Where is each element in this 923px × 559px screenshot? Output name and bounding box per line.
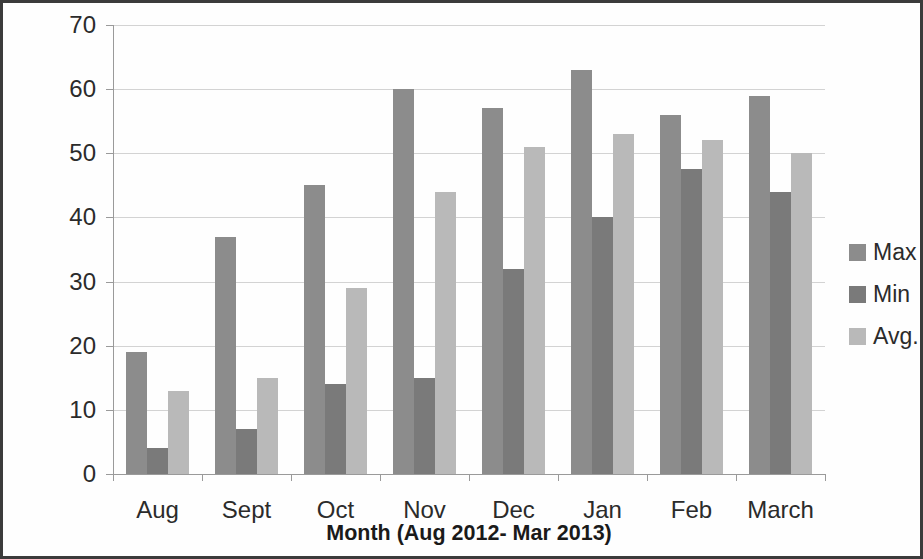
bar-avg (702, 140, 723, 474)
legend-item: Max (849, 231, 923, 273)
bar-group (749, 25, 811, 474)
x-axis-tick (202, 474, 203, 481)
bar-group (126, 25, 188, 474)
y-axis-label: 30 (69, 268, 96, 296)
y-axis-tick (106, 346, 113, 347)
x-axis-tick (558, 474, 559, 481)
x-axis-label: Nov (403, 496, 446, 524)
bar-group (571, 25, 633, 474)
y-axis-label: 60 (69, 75, 96, 103)
x-axis-tick (736, 474, 737, 481)
x-axis-tick (469, 474, 470, 481)
x-axis-tick (825, 474, 826, 481)
bar-group (660, 25, 722, 474)
bar-avg (168, 391, 189, 474)
x-axis-tick (291, 474, 292, 481)
bar-max (482, 108, 503, 474)
x-axis-title: Month (Aug 2012- Mar 2013) (113, 521, 825, 546)
bar-min (147, 448, 168, 474)
bar-min (414, 378, 435, 474)
bar-group (304, 25, 366, 474)
bar-min (592, 217, 613, 474)
x-axis-tick (113, 474, 114, 481)
legend: MaxMinAvg. (849, 231, 923, 357)
x-axis-label: Sept (222, 496, 271, 524)
x-axis-label: March (747, 496, 814, 524)
bar-avg (435, 192, 456, 474)
y-axis-label: 20 (69, 332, 96, 360)
bar-min (325, 384, 346, 474)
legend-swatch-icon (849, 328, 866, 345)
y-axis-tick (106, 474, 113, 475)
bar-avg (791, 153, 812, 474)
bar-min (770, 192, 791, 474)
bar-min (503, 269, 524, 474)
legend-item: Min (849, 273, 923, 315)
bar-min (681, 169, 702, 474)
bar-max (571, 70, 592, 474)
legend-item: Avg. (849, 315, 923, 357)
y-axis-label: 10 (69, 396, 96, 424)
bar-group (482, 25, 544, 474)
x-axis-tick (380, 474, 381, 481)
bar-max (126, 352, 147, 474)
y-axis-ticks: 010203040506070 (105, 25, 113, 474)
y-axis-tick (106, 89, 113, 90)
bars-layer: AugSeptOctNovDecJanFebMarch (113, 25, 825, 474)
y-axis-label: 70 (69, 11, 96, 39)
bar-group (215, 25, 277, 474)
x-axis-label: Jan (583, 496, 622, 524)
y-axis-label: 50 (69, 139, 96, 167)
y-axis-label: 40 (69, 203, 96, 231)
y-axis-tick (106, 410, 113, 411)
legend-label: Max (873, 239, 916, 266)
bar-max (660, 115, 681, 474)
bar-avg (346, 288, 367, 474)
y-axis-tick (106, 25, 113, 26)
bar-avg (613, 134, 634, 474)
y-axis-tick (106, 153, 113, 154)
plot-area: 010203040506070 AugSeptOctNovDecJanFebMa… (113, 25, 825, 474)
bar-avg (257, 378, 278, 474)
bar-avg (524, 147, 545, 474)
bar-max (749, 96, 770, 474)
bar-max (393, 89, 414, 474)
legend-label: Min (873, 281, 910, 308)
legend-swatch-icon (849, 244, 866, 261)
x-axis-label: Dec (492, 496, 535, 524)
legend-swatch-icon (849, 286, 866, 303)
bar-max (215, 237, 236, 474)
y-axis-tick (106, 282, 113, 283)
bar-group (393, 25, 455, 474)
x-axis-tick (647, 474, 648, 481)
bar-min (236, 429, 257, 474)
bar-max (304, 185, 325, 474)
bar-chart-figure: Concentration in µg/ m3 010203040506070 … (0, 0, 923, 559)
y-axis-label: 0 (83, 460, 96, 488)
x-axis-label: Oct (317, 496, 354, 524)
y-axis-tick (106, 217, 113, 218)
legend-label: Avg. (873, 323, 919, 350)
x-axis-label: Feb (671, 496, 712, 524)
x-axis-label: Aug (136, 496, 179, 524)
